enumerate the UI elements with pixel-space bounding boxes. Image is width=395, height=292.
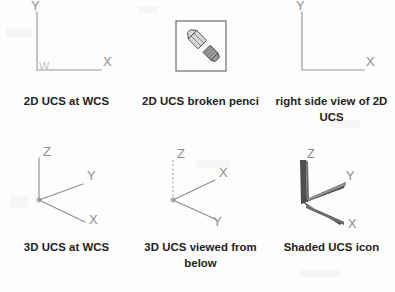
x-axis-line bbox=[173, 180, 215, 200]
z-axis-label: Z bbox=[177, 146, 185, 161]
axis-corner-path bbox=[302, 12, 364, 70]
figure-3d-ucs-at-wcs: Z Y X 3D UCS at WCS bbox=[0, 140, 133, 292]
3d-ucs-icon-below: Z X Y bbox=[151, 144, 251, 234]
shaded-ucs-icon: Z Y X bbox=[282, 144, 382, 234]
y-axis-label: Y bbox=[87, 168, 96, 183]
figure-2d-ucs-at-wcs: Y X W 2D UCS at WCS bbox=[0, 0, 133, 140]
figure-caption: 2D UCS at WCS bbox=[8, 94, 126, 110]
y-axis-line bbox=[173, 200, 217, 220]
figure-image-area: Z Y X bbox=[0, 140, 133, 238]
y-axis-label: Y bbox=[31, 0, 40, 13]
x-axis-label: X bbox=[366, 54, 375, 69]
figure-caption: right side view of 2D UCS bbox=[268, 94, 395, 125]
z-axis-label: Z bbox=[43, 144, 51, 159]
figure-caption: 3D UCS at WCS bbox=[8, 240, 126, 256]
x-axis-label: X bbox=[89, 212, 98, 227]
z-axis-label: Z bbox=[307, 147, 315, 161]
x-axis-label: X bbox=[219, 165, 228, 180]
2d-ucs-icon: Y X W bbox=[19, 2, 115, 90]
figure-caption: 2D UCS broken penci bbox=[142, 94, 260, 110]
figure-grid: Y X W 2D UCS at WCS bbox=[0, 0, 395, 292]
y-axis-bar-side bbox=[307, 182, 346, 201]
figure-image-area bbox=[133, 0, 268, 92]
figure-right-side-view-2d-ucs: Y X right side view of 2D UCS bbox=[268, 0, 395, 140]
y-axis-label: Y bbox=[296, 0, 305, 13]
x-axis-label: X bbox=[103, 54, 112, 69]
broken-pencil-icon bbox=[173, 18, 229, 74]
figure-caption: Shaded UCS icon bbox=[273, 240, 391, 256]
3d-ucs-icon: Z Y X bbox=[17, 144, 117, 234]
y-axis-label: Y bbox=[213, 214, 222, 229]
figure-sheet: Y X W 2D UCS at WCS bbox=[0, 0, 395, 292]
figure-2d-ucs-broken-pencil: 2D UCS broken penci bbox=[133, 0, 268, 140]
2d-ucs-icon-no-origin: Y X bbox=[286, 2, 378, 90]
wcs-origin-label: W bbox=[39, 60, 50, 72]
y-axis-label: Y bbox=[346, 169, 355, 183]
figure-shaded-ucs-icon: Z Y X Shaded UCS icon bbox=[268, 140, 395, 292]
z-axis-bar bbox=[300, 160, 307, 204]
figure-image-area: Z Y X bbox=[268, 140, 395, 238]
figure-image-area: Z X Y bbox=[133, 140, 268, 238]
y-axis-line bbox=[39, 184, 83, 200]
x-axis-label: X bbox=[348, 217, 357, 231]
figure-caption: 3D UCS viewed from below bbox=[137, 240, 265, 271]
figure-3d-ucs-viewed-from-below: Z X Y 3D UCS viewed from below bbox=[133, 140, 268, 292]
figure-image-area: Y X W bbox=[0, 0, 133, 92]
x-axis-bar-side bbox=[306, 205, 344, 225]
figure-image-area: Y X bbox=[268, 0, 395, 92]
x-axis-line bbox=[39, 200, 85, 222]
